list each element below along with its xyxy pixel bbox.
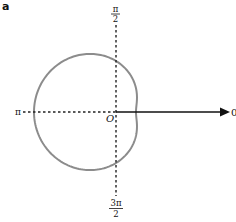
angle-label-three-half-pi: 3π 2	[109, 198, 123, 219]
arrow-head-icon	[220, 108, 230, 117]
angle-label-pi: π	[15, 107, 21, 117]
angle-label-zero: 0	[231, 107, 236, 118]
origin-label: O	[106, 113, 114, 124]
three-half-pi-numerator: 3π	[111, 198, 122, 208]
half-pi-numerator: π	[113, 4, 119, 14]
polar-diagram: 0 π O π 2 3π 2	[0, 0, 236, 222]
three-half-pi-denominator: 2	[113, 209, 118, 219]
half-pi-denominator: 2	[113, 14, 118, 24]
angle-label-half-pi: π 2	[111, 4, 120, 24]
